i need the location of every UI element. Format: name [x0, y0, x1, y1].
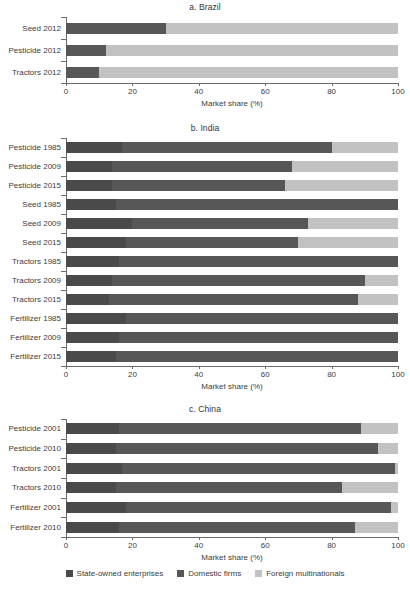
y-axis-tick: [61, 271, 66, 272]
bar-segment-dom: [116, 443, 378, 454]
stacked-bar: [66, 199, 398, 210]
x-axis-india: 020406080100: [0, 366, 410, 380]
bar-segment-foreign: [365, 275, 398, 286]
x-axis-tick-label: 60: [261, 370, 270, 379]
bar-row: Pesticide 1985: [0, 138, 410, 157]
y-axis-tick: [61, 498, 66, 499]
bar-segment-foreign: [308, 218, 398, 229]
bar-segment-dom: [126, 313, 398, 324]
bar-segment-state: [66, 443, 116, 454]
x-axis-brazil: 020406080100: [0, 83, 410, 97]
x-axis-tick-label: 100: [391, 370, 404, 379]
axis-gutter: [0, 83, 66, 97]
bar-row: Pesticide 2012: [0, 39, 410, 61]
x-axis-tick-label: 60: [261, 541, 270, 550]
axis-area-brazil: 020406080100: [66, 83, 398, 97]
x-axis-tick: [66, 537, 67, 540]
bar-segment-foreign: [358, 294, 398, 305]
stacked-bar: [66, 463, 398, 474]
bar-row-label: Pesticide 2015: [0, 181, 66, 190]
legend-item-foreign: Foreign multinationals: [255, 569, 344, 578]
x-axis-tick: [332, 366, 333, 369]
bar-row: Tractors 2012: [0, 61, 410, 83]
bar-row-label: Tractors 2012: [0, 68, 66, 77]
x-axis-tick: [332, 83, 333, 86]
bar-segment-foreign: [355, 522, 398, 533]
y-axis-tick: [61, 347, 66, 348]
x-axis-china: 020406080100: [0, 537, 410, 551]
x-axis-tick-label: 60: [261, 87, 270, 96]
x-axis-tick: [132, 537, 133, 540]
x-axis-tick: [398, 366, 399, 369]
bar-row-label: Seed 2015: [0, 238, 66, 247]
bar-segment-state: [66, 218, 132, 229]
legend-swatch-icon: [255, 570, 262, 577]
x-axis-tick: [199, 366, 200, 369]
bar-track: [66, 67, 398, 78]
x-axis-tick-label: 80: [327, 370, 336, 379]
bar-row-label: Tractors 2001: [0, 464, 66, 473]
panel-china: c. China Pesticide 2001Pesticide 2010Tra…: [0, 392, 410, 563]
stacked-bar: [66, 522, 398, 533]
bar-row-label: Pesticide 2001: [0, 424, 66, 433]
bar-segment-foreign: [395, 463, 398, 474]
x-axis-tick: [66, 83, 67, 86]
bar-row-label: Fertilizer 2009: [0, 333, 66, 342]
legend-item-state: State-owned enterprises: [66, 569, 164, 578]
bar-track: [66, 482, 398, 493]
bar-row: Tractors 1985: [0, 252, 410, 271]
stacked-bar: [66, 218, 398, 229]
bar-track: [66, 237, 398, 248]
axis-title-brazil: Market share (%): [66, 99, 398, 109]
bar-row: Fertilizer 2001: [0, 498, 410, 518]
bar-track: [66, 161, 398, 172]
x-axis-tick-label: 0: [64, 87, 68, 96]
bar-segment-dom: [132, 218, 308, 229]
x-axis-tick-label: 40: [194, 87, 203, 96]
bar-row-label: Fertilizer 1985: [0, 314, 66, 323]
plot-india: Pesticide 1985Pesticide 2009Pesticide 20…: [0, 138, 410, 392]
bar-row: Seed 2009: [0, 214, 410, 233]
bar-segment-foreign: [378, 443, 398, 454]
bar-segment-state: [66, 332, 119, 343]
bar-row: Fertilizer 2015: [0, 347, 410, 366]
bar-row: Tractors 2001: [0, 458, 410, 478]
y-axis-tick: [61, 233, 66, 234]
bar-segment-state: [66, 256, 119, 267]
x-axis-tick: [265, 366, 266, 369]
stacked-bar: [66, 351, 398, 362]
bar-track: [66, 423, 398, 434]
bar-row-label: Tractors 2010: [0, 483, 66, 492]
bar-segment-dom: [119, 256, 398, 267]
panel-title-china: c. China: [0, 404, 410, 415]
stacked-bar: [66, 23, 398, 34]
x-axis-tick-label: 20: [128, 541, 137, 550]
stacked-bar: [66, 443, 398, 454]
bar-segment-state: [66, 522, 119, 533]
bar-row: Pesticide 2009: [0, 157, 410, 176]
bar-row-label: Pesticide 2009: [0, 162, 66, 171]
bar-track: [66, 502, 398, 513]
x-axis-tick-label: 80: [327, 541, 336, 550]
bar-segment-dom: [119, 522, 355, 533]
stacked-bar: [66, 313, 398, 324]
bar-row-label: Tractors 2009: [0, 276, 66, 285]
stacked-bar: [66, 67, 398, 78]
legend-label: Domestic firms: [188, 569, 241, 578]
bar-segment-state: [66, 313, 126, 324]
bar-row-label: Pesticide 2012: [0, 46, 66, 55]
y-axis-tick: [61, 252, 66, 253]
bar-row-label: Pesticide 2010: [0, 444, 66, 453]
bar-segment-foreign: [391, 502, 398, 513]
bar-row-label: Seed 2009: [0, 219, 66, 228]
stacked-bar: [66, 502, 398, 513]
legend-swatch-icon: [66, 570, 73, 577]
y-axis-tick: [61, 517, 66, 518]
stacked-bar: [66, 45, 398, 56]
bar-segment-dom: [126, 237, 299, 248]
axis-title-india: Market share (%): [66, 382, 398, 392]
bar-rows-india: Pesticide 1985Pesticide 2009Pesticide 20…: [0, 138, 410, 366]
panel-brazil: a. Brazil Seed 2012Pesticide 2012Tractor…: [0, 0, 410, 109]
panel-india: b. India Pesticide 1985Pesticide 2009Pes…: [0, 109, 410, 392]
legend-label: State-owned enterprises: [77, 569, 164, 578]
